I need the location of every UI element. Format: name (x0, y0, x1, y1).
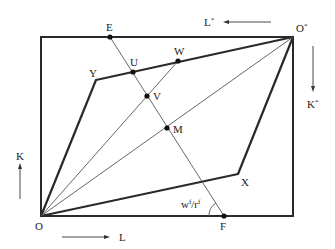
label-U: U (130, 56, 138, 68)
point-U-dot (130, 69, 135, 74)
L-arrowhead-icon (104, 235, 110, 239)
label-wage-rental-ratio: wf/rf (181, 198, 201, 210)
point-W-dot (175, 58, 180, 63)
point-F-dot (221, 213, 226, 218)
label-W: W (174, 45, 185, 57)
label-K-axis: K (16, 150, 24, 162)
label-F: F (220, 220, 226, 232)
L-star-arrowhead-icon (223, 20, 229, 24)
angle-arc-F (209, 203, 216, 216)
label-Y: Y (89, 67, 97, 79)
label-K-star-axis: K* (307, 98, 319, 110)
K-star-arrowhead-icon (311, 86, 315, 92)
label-L-star-axis: L* (204, 16, 215, 28)
edgeworth-box-diagram: E U W V M F Y X O O* wf/rf L K L* K* (0, 0, 335, 249)
label-X: X (241, 176, 249, 188)
label-E: E (106, 21, 113, 33)
label-M: M (173, 123, 183, 135)
point-V-dot (144, 93, 149, 98)
ray-O-W (41, 61, 178, 216)
label-origin-Ostar: O* (296, 22, 308, 34)
point-M-dot (164, 125, 169, 130)
label-L-axis: L (119, 231, 126, 243)
label-V: V (153, 90, 161, 102)
K-arrowhead-icon (18, 163, 22, 169)
point-E-dot (107, 34, 112, 39)
label-origin-O: O (35, 220, 43, 232)
